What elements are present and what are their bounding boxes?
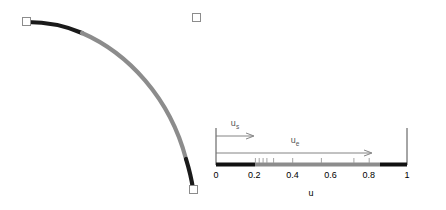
spline-curve-graphic bbox=[0, 0, 215, 210]
x-tick-label-1: 0.2 bbox=[248, 170, 261, 180]
u-start-arrow-label: us bbox=[231, 118, 239, 130]
parameter-domain-graphic bbox=[205, 112, 446, 210]
x-tick-label-3: 0.6 bbox=[324, 170, 337, 180]
knot-ticks bbox=[255, 158, 369, 163]
curve-segment-head[interactable] bbox=[27, 22, 82, 33]
u-start-subscript: s bbox=[236, 123, 239, 130]
curve-segment-body[interactable] bbox=[82, 33, 186, 159]
x-tick-label-2: 0.4 bbox=[286, 170, 299, 180]
x-tick-label-5: 1 bbox=[404, 170, 409, 180]
spline-curve-viewport[interactable] bbox=[0, 0, 215, 210]
x-axis-label: u bbox=[308, 188, 313, 198]
u-end-subscript: e bbox=[296, 140, 300, 147]
x-tick-label-4: 0.8 bbox=[363, 170, 376, 180]
control-point-start[interactable] bbox=[22, 17, 31, 26]
parameter-domain-plot: us ue 0 0.2 0.4 0.6 0.8 1 u bbox=[205, 112, 446, 210]
u-end-arrow-label: ue bbox=[291, 135, 300, 147]
x-tick-label-0: 0 bbox=[213, 170, 218, 180]
figure-canvas: us ue 0 0.2 0.4 0.6 0.8 1 u bbox=[0, 0, 446, 210]
control-point-end[interactable] bbox=[189, 185, 198, 194]
control-point-middle[interactable] bbox=[192, 13, 201, 22]
